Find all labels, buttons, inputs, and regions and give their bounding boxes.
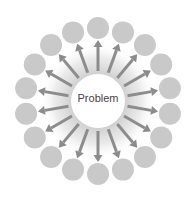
node-circle xyxy=(112,159,134,181)
center-label: Problem xyxy=(63,92,133,104)
node-circle xyxy=(24,54,46,76)
node-circle xyxy=(112,21,134,43)
node-circle xyxy=(40,146,62,168)
node-circle xyxy=(15,103,37,125)
node-circle xyxy=(159,77,181,99)
node-circle xyxy=(134,146,156,168)
node-circle xyxy=(150,127,172,149)
node-circle xyxy=(62,21,84,43)
node-circle xyxy=(15,77,37,99)
node-circle xyxy=(62,159,84,181)
node-circle xyxy=(159,103,181,125)
node-circle xyxy=(87,163,109,185)
node-circle xyxy=(24,127,46,149)
node-circle xyxy=(150,54,172,76)
problem-radial-diagram: Problem xyxy=(0,0,196,205)
node-circle xyxy=(87,17,109,39)
node-circle xyxy=(134,34,156,56)
node-circle xyxy=(40,34,62,56)
